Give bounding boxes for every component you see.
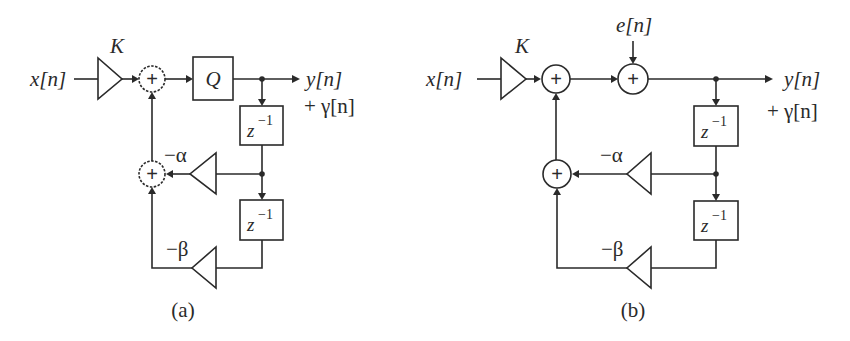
wire-beta-in-b	[651, 240, 716, 268]
delay2-label-a: z	[246, 214, 255, 235]
caption-b: (b)	[621, 298, 646, 322]
delay1-exp-b: −1	[712, 114, 727, 129]
delay1-label-a: z	[246, 120, 255, 141]
plus-icon: +	[146, 163, 158, 185]
arrowhead-icon	[258, 193, 266, 200]
input-label-a: x[n]	[29, 67, 66, 91]
arrowhead-icon	[148, 92, 156, 99]
gain-beta-triangle-b	[627, 247, 651, 288]
plus-icon: +	[627, 68, 639, 90]
arrowhead-icon	[292, 75, 300, 83]
arrowhead-icon	[258, 99, 266, 106]
output-noise-label-b: + γ[n]	[767, 99, 818, 123]
beta-label-b: −β	[601, 237, 624, 261]
wire-beta-in-a	[216, 240, 262, 268]
gain-alpha-triangle-b	[627, 153, 651, 194]
plus-icon: +	[550, 68, 562, 90]
block-diagrams: x[n] K + Q y[n] + γ[n] z −1	[0, 0, 850, 341]
beta-label-a: −β	[166, 237, 189, 261]
plus-icon: +	[551, 163, 563, 185]
quantizer-label-a: Q	[205, 67, 220, 91]
gain-alpha-triangle-a	[190, 153, 216, 194]
arrowhead-icon	[552, 93, 560, 100]
gain-k-triangle-a	[98, 58, 122, 99]
caption-a: (a)	[171, 298, 194, 322]
plus-icon: +	[146, 68, 158, 90]
arrowhead-icon	[712, 99, 720, 106]
arrowhead-icon	[166, 170, 173, 178]
arrowhead-icon	[534, 75, 541, 83]
arrowhead-icon	[186, 75, 193, 83]
noise-input-label-b: e[n]	[616, 13, 652, 37]
delay1-exp-a: −1	[258, 113, 273, 128]
arrowhead-icon	[765, 75, 773, 83]
delay1-label-b: z	[700, 121, 709, 142]
arrowhead-icon	[132, 75, 139, 83]
arrowhead-icon	[611, 75, 618, 83]
arrowhead-icon	[572, 170, 579, 178]
input-label-b: x[n]	[425, 67, 462, 91]
arrowhead-icon	[629, 57, 637, 64]
gain-k-label-a: K	[109, 34, 125, 58]
output-label-a: y[n]	[304, 67, 342, 91]
delay2-exp-b: −1	[712, 208, 727, 223]
arrowhead-icon	[148, 187, 156, 194]
alpha-label-b: −α	[600, 143, 623, 167]
gain-k-label-b: K	[514, 34, 530, 58]
delay2-exp-a: −1	[258, 207, 273, 222]
output-label-b: y[n]	[782, 67, 820, 91]
arrowhead-icon	[712, 194, 720, 201]
gain-k-triangle-b	[501, 58, 526, 99]
output-noise-label-a: + γ[n]	[304, 94, 355, 118]
delay2-label-b: z	[700, 215, 709, 236]
diagram-a: x[n] K + Q y[n] + γ[n] z −1	[29, 34, 355, 322]
alpha-label-a: −α	[164, 143, 187, 167]
gain-beta-triangle-a	[192, 247, 216, 288]
diagram-b: x[n] K + + e[n] y[n] + γ[n] z −1 −	[425, 13, 820, 322]
arrowhead-icon	[553, 188, 561, 195]
